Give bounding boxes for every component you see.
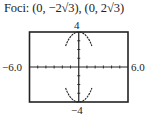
plot-area bbox=[0, 0, 147, 116]
axes bbox=[30, 32, 129, 102]
